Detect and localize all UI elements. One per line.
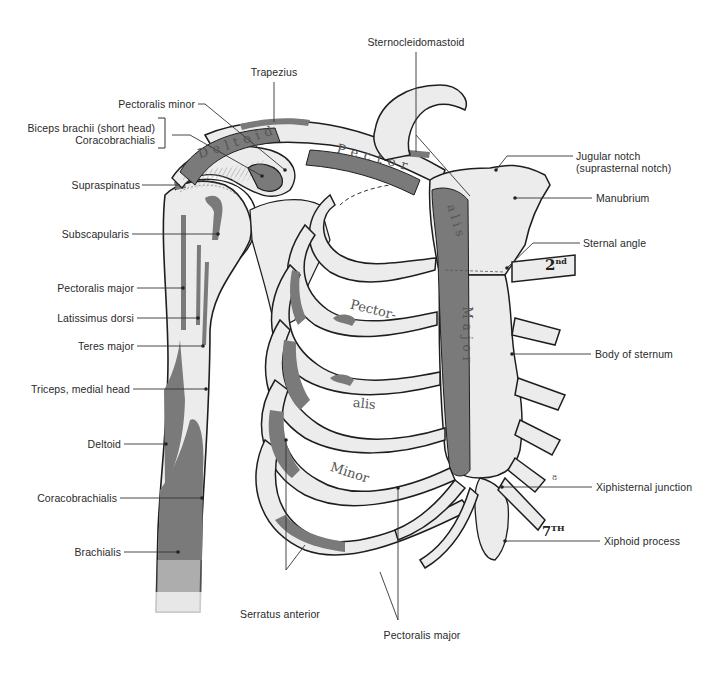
label-bracket <box>158 118 165 148</box>
anatomy-figure: Pectoralis minor Biceps brachii (short h… <box>0 0 721 681</box>
label-pectoralis-major-bottom: Pectoralis major <box>372 629 472 641</box>
label-biceps-short-head: Biceps brachii (short head) <box>27 122 155 134</box>
first-rib <box>374 85 466 160</box>
hidden-rib-contour <box>340 185 390 205</box>
label-triceps-medial-head: Triceps, medial head <box>31 383 130 395</box>
text-major-on-sternum: Major <box>460 306 474 367</box>
label-suprasternal-notch: (suprasternal notch) <box>576 162 671 174</box>
label-sternal-angle: Sternal angle <box>583 237 646 249</box>
rib-label-2nd: 2nd <box>545 256 567 274</box>
rib-7-number: 7 <box>542 524 551 539</box>
label-supraspinatus: Supraspinatus <box>72 179 140 191</box>
rib-2-number: 2 <box>545 256 555 274</box>
rib-7-suffix: TH <box>551 523 565 533</box>
label-jugular-notch: Jugular notch <box>576 150 640 162</box>
label-deltoid: Deltoid <box>88 438 121 450</box>
label-latissimus-dorsi: Latissimus dorsi <box>57 312 134 324</box>
label-xiphisternal-junction: Xiphisternal junction <box>596 481 692 493</box>
label-coracobrachialis-top: Coracobrachialis <box>75 134 155 146</box>
leader-pect-major-low-2 <box>380 572 398 620</box>
rib-2-suffix: nd <box>555 256 566 266</box>
label-coracobrachialis: Coracobrachialis <box>37 492 117 504</box>
label-sternocleidomastoid: Sternocleidomastoid <box>366 36 466 48</box>
pectoralis-major-attachment <box>181 215 186 330</box>
label-teres-major: Teres major <box>78 340 134 352</box>
rib-8-marker: 8 <box>552 473 557 482</box>
label-subscapularis: Subscapularis <box>62 228 129 240</box>
label-manubrium: Manubrium <box>596 192 649 204</box>
label-brachialis: Brachialis <box>74 546 121 558</box>
text-alis-rib: alis <box>352 395 376 412</box>
ribs <box>256 195 575 568</box>
rib-label-7th: 7TH <box>542 523 565 539</box>
label-pectoralis-major-arm: Pectoralis major <box>57 282 134 294</box>
label-pectoralis-minor: Pectoralis minor <box>118 98 195 110</box>
label-serratus-anterior: Serratus anterior <box>220 608 340 620</box>
label-trapezius: Trapezius <box>244 66 304 78</box>
label-xiphoid-process: Xiphoid process <box>604 535 680 547</box>
label-body-of-sternum: Body of sternum <box>595 348 673 360</box>
humerus <box>155 179 256 614</box>
leader-serratus-2 <box>286 545 305 570</box>
